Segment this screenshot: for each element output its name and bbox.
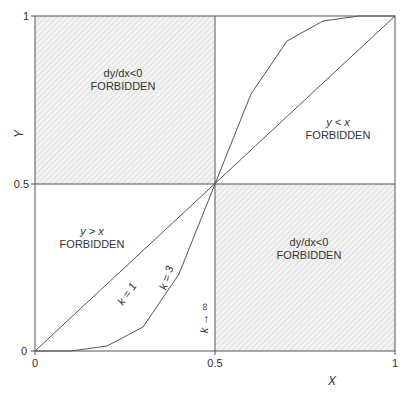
curve-label-kinf: k → ∞	[198, 303, 210, 334]
region-top-left-hatched	[35, 16, 215, 184]
x-tick-0: 0	[32, 357, 38, 369]
region-top-right-line2: FORBIDDEN	[306, 129, 371, 141]
curve-label-k3: k = 3	[157, 264, 176, 292]
x-axis-label: X	[327, 374, 337, 388]
region-bottom-right-line2: FORBIDDEN	[277, 249, 342, 261]
x-tick-0-5: 0.5	[207, 357, 222, 369]
region-top-right-line1: y < x	[325, 116, 350, 128]
region-bottom-left-line1: y > x	[79, 225, 104, 237]
y-tick-0: 0	[21, 345, 27, 357]
curve-label-k1: k = 1	[115, 280, 139, 307]
region-bottom-right-line1: dy/dx<0	[290, 236, 329, 248]
region-top-left-line1: dy/dx<0	[104, 67, 143, 79]
region-bottom-left-line2: FORBIDDEN	[60, 238, 125, 250]
y-axis-label: Y	[12, 129, 26, 138]
diagram: 0 0.5 1 0 0.5 1 X Y dy/dx<0 FORBIDDEN y …	[0, 0, 408, 398]
x-tick-1: 1	[392, 357, 398, 369]
y-tick-0-5: 0.5	[14, 178, 29, 190]
y-tick-1: 1	[23, 10, 29, 22]
region-top-left-line2: FORBIDDEN	[91, 80, 156, 92]
region-bottom-right-hatched	[215, 184, 395, 351]
